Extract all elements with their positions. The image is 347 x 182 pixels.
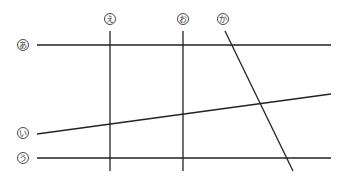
label-ka: か xyxy=(218,14,229,25)
label-e: え xyxy=(105,14,116,25)
line-diagram: あ い う え お か xyxy=(0,0,347,182)
label-text: う xyxy=(19,154,27,163)
label-text: え xyxy=(106,15,114,24)
label-text: か xyxy=(219,15,227,24)
label-text: あ xyxy=(19,41,27,50)
label-i: い xyxy=(18,128,29,139)
label-text: お xyxy=(179,15,187,24)
label-u: う xyxy=(18,153,29,164)
label-a: あ xyxy=(18,40,29,51)
label-o: お xyxy=(178,14,189,25)
line-i xyxy=(37,94,331,134)
label-text: い xyxy=(19,129,27,138)
lines-group xyxy=(37,31,331,171)
labels-group: あ い う え お か xyxy=(18,14,229,164)
